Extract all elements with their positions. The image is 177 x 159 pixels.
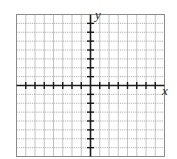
coordinate-grid (0, 0, 177, 159)
y-axis-label: y (95, 8, 101, 21)
x-axis-label: x (162, 84, 168, 97)
